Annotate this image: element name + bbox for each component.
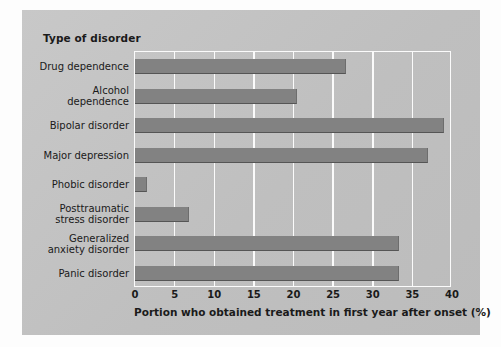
x-tick-label: 0 [132,289,139,300]
bar [135,236,399,251]
x-tick-label: 20 [287,289,301,300]
bar [135,207,189,222]
bar-row: Alcohol dependence [135,82,452,112]
bar [135,266,399,281]
y-tick-label: Major depression [0,150,129,161]
y-tick-label: Bipolar disorder [0,120,129,131]
x-tick-label: 25 [326,289,340,300]
plot-area: 0510152025303540Drug dependenceAlcohol d… [134,51,451,287]
bar-row: Panic disorder [135,259,452,289]
figure-canvas: Type of disorder 0510152025303540Drug de… [0,0,501,347]
y-tick-label: Posttraumatic stress disorder [0,203,129,225]
page-title: Type of disorder [43,32,141,44]
bar-row: Bipolar disorder [135,111,452,141]
y-tick-label: Generalized anxiety disorder [0,233,129,255]
x-axis-label: Portion who obtained treatment in first … [134,306,451,318]
x-tick-label: 10 [207,289,221,300]
y-tick-label: Drug dependence [0,61,129,72]
x-tick-label: 5 [171,289,178,300]
bar-row: Drug dependence [135,52,452,82]
x-tick-label: 30 [366,289,380,300]
x-tick-label: 35 [405,289,419,300]
y-tick-label: Alcohol dependence [0,85,129,107]
bar-row: Generalized anxiety disorder [135,229,452,259]
bar [135,59,346,74]
chart-panel: Type of disorder 0510152025303540Drug de… [22,10,480,335]
bar [135,89,297,104]
x-tick-label: 40 [445,289,459,300]
y-tick-label: Phobic disorder [0,179,129,190]
bar [135,177,147,192]
bar [135,148,428,163]
bar-row: Posttraumatic stress disorder [135,200,452,230]
bar-row: Major depression [135,141,452,171]
x-tick-label: 15 [247,289,261,300]
bar-row: Phobic disorder [135,170,452,200]
bar [135,118,444,133]
y-tick-label: Panic disorder [0,268,129,279]
